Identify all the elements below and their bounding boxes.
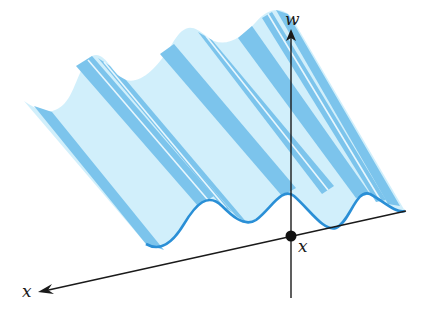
wave-surface-diagram: w x x — [0, 0, 426, 319]
origin-x-label: x — [298, 236, 308, 256]
x-axis-label: x — [22, 281, 32, 301]
x-axis-line — [44, 211, 406, 291]
w-axis-label: w — [285, 9, 300, 29]
diagram-canvas: w x x — [0, 0, 426, 319]
origin-dot — [286, 231, 297, 242]
wave-surface — [24, 10, 405, 250]
